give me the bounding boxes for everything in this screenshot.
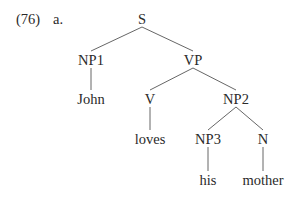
edge-VP-V: [150, 68, 193, 90]
edge-S-NP1: [91, 27, 142, 51]
edge-NP2-NP3: [208, 107, 236, 130]
node-NP2: NP2: [223, 92, 249, 107]
node-NP3: NP3: [195, 132, 221, 147]
leaf-loves: loves: [135, 132, 166, 147]
node-VP: VP: [184, 53, 203, 68]
leaf-John: John: [77, 92, 104, 107]
node-S: S: [138, 12, 146, 27]
example-number: (76): [16, 12, 40, 27]
edge-VP-NP2: [193, 68, 236, 90]
leaf-mother: mother: [242, 173, 283, 188]
edge-NP2-N: [236, 107, 263, 130]
node-V: V: [145, 92, 155, 107]
edge-S-VP: [142, 27, 193, 51]
node-NP1: NP1: [78, 53, 104, 68]
example-sub-label: a.: [53, 12, 63, 27]
node-N: N: [258, 132, 268, 147]
leaf-his: his: [200, 173, 217, 188]
